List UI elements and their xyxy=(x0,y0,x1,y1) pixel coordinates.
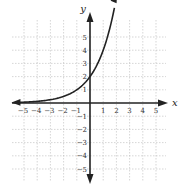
y-tick-label: 4 xyxy=(83,47,88,55)
curve-arrow-left-icon xyxy=(11,99,20,106)
y-tick-label: 2 xyxy=(83,73,87,81)
x-tick-label: 5 xyxy=(154,107,158,115)
curve-arrow-right-icon xyxy=(111,0,118,3)
x-axis-label: x xyxy=(172,97,178,108)
y-tick-label: −5 xyxy=(77,166,87,174)
y-tick-label: 3 xyxy=(83,60,87,68)
x-tick-label: 1 xyxy=(101,107,105,115)
y-tick-label: 1 xyxy=(83,86,87,94)
x-tick-label: −5 xyxy=(18,107,28,115)
y-axis-label: y xyxy=(79,3,86,14)
x-tick-label: 2 xyxy=(114,107,118,115)
x-tick-label: 3 xyxy=(127,107,131,115)
y-tick-label: 5 xyxy=(83,34,87,42)
y-tick-label: −4 xyxy=(77,152,88,160)
y-tick-label: −2 xyxy=(77,126,87,134)
y-axis-arrow-top-icon xyxy=(87,12,94,22)
y-axis-arrow-bottom-icon xyxy=(87,174,94,184)
x-tick-label: −4 xyxy=(31,107,42,115)
axes xyxy=(12,12,168,184)
x-tick-label: 4 xyxy=(141,107,146,115)
exponential-curve xyxy=(16,8,114,103)
x-tick-label: −3 xyxy=(44,107,54,115)
y-tick-label: −3 xyxy=(77,139,87,147)
y-tick-label: −1 xyxy=(77,113,87,121)
x-axis-arrow-icon xyxy=(158,100,168,107)
x-tick-label: −2 xyxy=(57,107,67,115)
coordinate-plane: −5−4−3−2−11234554321−1−2−3−4−5 x y xyxy=(0,0,185,193)
